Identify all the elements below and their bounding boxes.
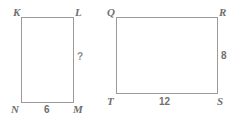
rectangle-klmn	[21, 17, 74, 103]
vertex-label-s: S	[217, 96, 223, 107]
vertex-label-r: R	[219, 7, 226, 18]
vertex-label-n: N	[11, 104, 19, 115]
rectangle-qrst	[116, 17, 218, 94]
vertex-label-k: K	[13, 7, 20, 18]
vertex-label-t: T	[107, 96, 114, 107]
geometry-figure: K L M N 6 ? Q R S T 12 8	[0, 0, 233, 119]
vertex-label-q: Q	[107, 7, 115, 18]
side-label-qrst-right: 8	[221, 51, 227, 61]
vertex-label-l: L	[75, 7, 82, 18]
side-label-qrst-bottom: 12	[159, 97, 170, 107]
vertex-label-m: M	[73, 104, 83, 115]
side-label-klmn-bottom: 6	[44, 105, 50, 115]
side-label-klmn-right-unknown: ?	[77, 52, 83, 62]
